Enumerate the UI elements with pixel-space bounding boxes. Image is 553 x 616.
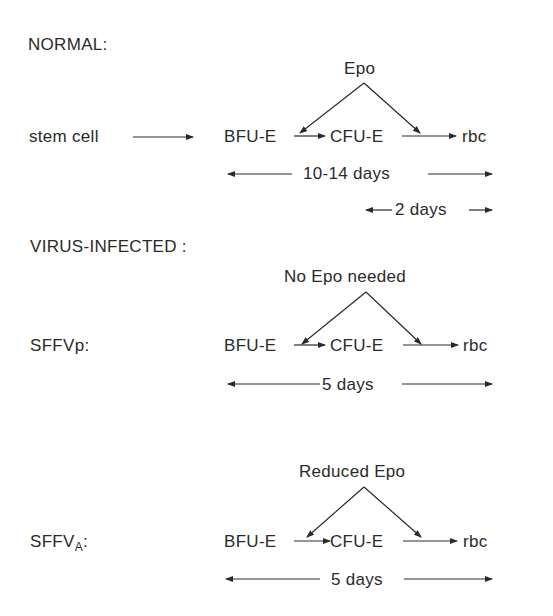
sffva-label-suffix: : <box>83 532 88 551</box>
reduced-epo-label: Reduced Epo <box>299 463 405 480</box>
epo-label: Epo <box>344 60 375 77</box>
node-bfu-e: BFU-E <box>224 533 277 550</box>
arrow-reduced-to-bfu <box>307 487 364 537</box>
duration-5-days: 5 days <box>322 376 374 393</box>
sffva-label-subscript: A <box>75 540 83 554</box>
node-rbc: rbc <box>462 128 487 145</box>
node-cfu-e: CFU-E <box>330 337 383 354</box>
duration-5-days: 5 days <box>331 571 383 588</box>
node-bfu-e: BFU-E <box>224 337 277 354</box>
arrow-reduced-to-cfu <box>364 487 421 537</box>
node-cfu-e: CFU-E <box>330 128 383 145</box>
no-epo-needed-label: No Epo needed <box>284 268 406 285</box>
node-rbc: rbc <box>463 337 488 354</box>
normal-heading: NORMAL: <box>28 36 108 53</box>
sffvp-label: SFFVp: <box>30 337 89 354</box>
virus-infected-heading: VIRUS-INFECTED : <box>30 238 187 255</box>
node-rbc: rbc <box>463 533 488 550</box>
arrow-epo-to-bfu <box>300 83 364 133</box>
stem-cell-label: stem cell <box>29 128 99 145</box>
sffva-label-text: SFFV <box>30 532 75 551</box>
duration-2-days: 2 days <box>395 201 447 218</box>
sffva-label: SFFVA: <box>30 533 88 553</box>
duration-10-14-days: 10-14 days <box>303 165 390 182</box>
arrow-epo-to-cfu <box>364 83 420 133</box>
node-bfu-e: BFU-E <box>224 128 277 145</box>
diagram-arrows <box>0 0 553 616</box>
node-cfu-e: CFU-E <box>330 533 383 550</box>
